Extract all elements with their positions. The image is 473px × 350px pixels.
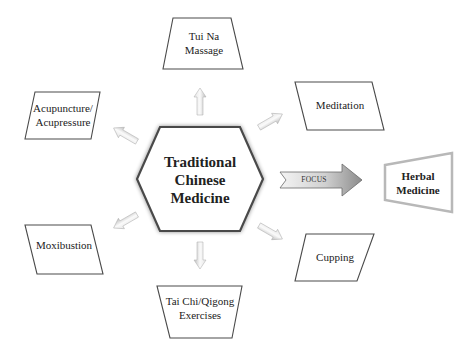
node-label-line: Meditation xyxy=(316,99,364,113)
node-tui-na: Tui Na Massage xyxy=(168,22,240,66)
node-label-line: Tai Chi/Qigong xyxy=(166,295,235,309)
node-label-line: Cupping xyxy=(316,251,354,265)
arrow-up-right-icon xyxy=(256,109,285,133)
arrow-up-left-icon xyxy=(111,123,140,147)
arrow-down-icon xyxy=(194,242,206,269)
node-herbal-medicine: Herbal Medicine xyxy=(386,160,450,206)
node-label-line: Moxibustion xyxy=(36,239,92,253)
node-label-line: Exercises xyxy=(166,309,235,323)
arrow-down-left-icon xyxy=(111,209,140,233)
node-label-line: Acupressure xyxy=(33,116,93,130)
node-acupuncture: Acupuncture/ Acupressure xyxy=(27,94,99,138)
focus-label-text: FOCUS xyxy=(301,175,327,184)
node-meditation: Meditation xyxy=(302,86,378,126)
herbal-label-line: Medicine xyxy=(396,183,439,197)
focus-arrow-label: FOCUS xyxy=(288,172,340,188)
center-label-line: Medicine xyxy=(164,189,236,207)
arrow-up-icon xyxy=(194,88,206,115)
node-moxibustion: Moxibustion xyxy=(30,226,98,266)
center-label-line: Chinese xyxy=(164,171,236,189)
node-label-line: Massage xyxy=(185,44,224,58)
arrow-down-right-icon xyxy=(256,220,285,244)
node-tai-chi: Tai Chi/Qigong Exercises xyxy=(158,288,242,330)
node-label-line: Acupuncture/ xyxy=(33,102,93,116)
center-label: Traditional Chinese Medicine xyxy=(140,135,260,225)
center-label-line: Traditional xyxy=(164,153,236,171)
herbal-label-line: Herbal xyxy=(396,169,439,183)
node-label-line: Tui Na xyxy=(185,30,224,44)
node-cupping: Cupping xyxy=(300,238,370,278)
